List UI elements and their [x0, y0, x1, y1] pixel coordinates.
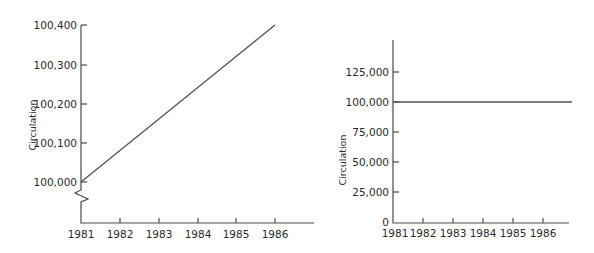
left-y-ticks: [81, 25, 87, 182]
left-xtick-2: 1983: [146, 228, 173, 240]
left-x-ticks: [120, 218, 275, 223]
right-ytick-5: 125,000: [346, 66, 389, 78]
right-xtick-1: 1982: [410, 227, 437, 239]
right-y-axis-title: Circulation: [337, 135, 348, 186]
left-xtick-1: 1982: [107, 228, 134, 240]
left-ytick-1: 100,100: [34, 137, 77, 149]
right-xtick-3: 1984: [470, 227, 497, 239]
left-series-line: [81, 25, 275, 182]
right-xtick-5: 1986: [530, 227, 557, 239]
right-ytick-4: 100,000: [346, 96, 389, 108]
right-ytick-1: 25,000: [352, 186, 389, 198]
left-ytick-4: 100,400: [34, 19, 77, 31]
right-chart: Circulation 0 25,000 50,000 75,000 100,0…: [337, 40, 572, 239]
left-ytick-2: 100,200: [34, 98, 77, 110]
right-x-ticks: [423, 218, 543, 223]
left-xtick-3: 1984: [185, 228, 212, 240]
left-x-tick-labels: 1981 1982 1983 1984 1985 1986: [68, 228, 289, 240]
right-y-tick-labels: 0 25,000 50,000 75,000 100,000 125,000: [346, 66, 389, 228]
right-x-tick-labels: 1981 1982 1983 1984 1985 1986: [382, 227, 557, 239]
left-ytick-0: 100,000: [34, 176, 77, 188]
left-y-axis: [75, 25, 314, 223]
left-xtick-4: 1985: [223, 228, 250, 240]
right-y-axis: [393, 40, 569, 223]
left-xtick-5: 1986: [262, 228, 289, 240]
left-xtick-0: 1981: [68, 228, 95, 240]
right-xtick-2: 1983: [440, 227, 467, 239]
left-ytick-3: 100,300: [34, 59, 77, 71]
right-ytick-3: 75,000: [352, 126, 389, 138]
left-y-tick-labels: 100,000 100,100 100,200 100,300 100,400: [34, 19, 77, 188]
right-xtick-4: 1985: [500, 227, 527, 239]
right-xtick-0: 1981: [382, 227, 409, 239]
right-y-ticks: [393, 72, 399, 192]
right-ytick-2: 50,000: [352, 156, 389, 168]
left-chart: Circulation 100,000 100,100 100,200 100,…: [27, 19, 314, 240]
charts-canvas: Circulation 100,000 100,100 100,200 100,…: [0, 0, 594, 253]
